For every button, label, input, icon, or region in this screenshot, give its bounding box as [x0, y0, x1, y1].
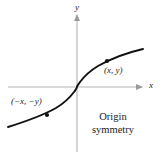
caption-line-1: Origin: [80, 110, 146, 123]
point-negative-marker: [45, 113, 49, 117]
caption-line-2: symmetry: [80, 123, 146, 136]
x-axis-label: x: [149, 81, 153, 90]
point-positive-label: (x, y): [104, 66, 122, 75]
point-negative-label: (−x, −y): [11, 97, 42, 106]
y-axis-label: y: [75, 3, 79, 12]
figure-caption: Origin symmetry: [80, 110, 146, 136]
point-positive-marker: [105, 59, 109, 63]
origin-symmetry-figure: y x (x, y) (−x, −y) Origin symmetry: [0, 0, 163, 160]
